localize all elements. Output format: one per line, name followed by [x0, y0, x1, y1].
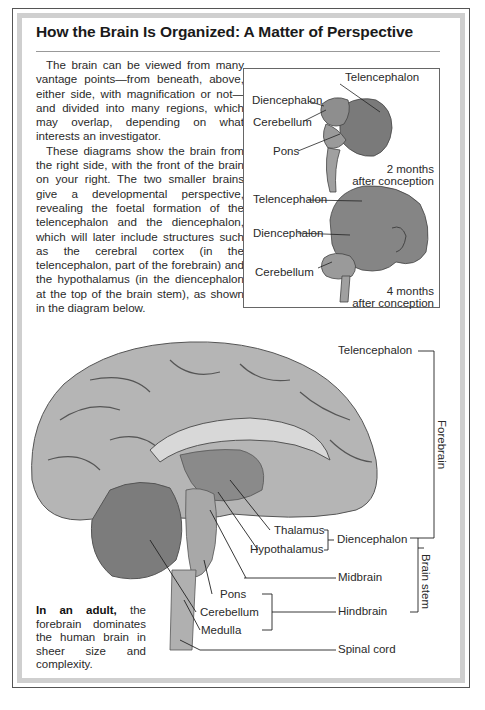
label-pons-2mo: Pons	[273, 145, 299, 157]
label-spinal-cord: Spinal cord	[338, 643, 396, 655]
label-telencephalon-adult: Telencephalon	[338, 344, 412, 356]
label-telencephalon-2mo: Telencephalon	[345, 71, 419, 83]
caption-4-months-line2: after conception	[348, 297, 434, 309]
caption-2-months-line2: after conception	[348, 175, 434, 187]
label-midbrain: Midbrain	[338, 571, 382, 583]
label-pons-adult: Pons	[220, 588, 246, 600]
label-hindbrain: Hindbrain	[338, 605, 387, 617]
label-medulla: Medulla	[201, 624, 241, 636]
group-label-forebrain: Forebrain	[436, 420, 448, 469]
caption-2-months-line1: 2 months	[348, 163, 434, 175]
label-diencephalon-adult: Diencephalon	[337, 533, 407, 545]
caption-2-months: 2 months after conception	[348, 163, 434, 187]
label-diencephalon-2mo: Diencephalon	[252, 94, 322, 106]
label-diencephalon-4mo: Diencephalon	[253, 227, 323, 239]
caption-4-months: 4 months after conception	[348, 285, 434, 309]
adult-note-lead: In an adult,	[36, 604, 117, 616]
label-cerebellum-4mo: Cerebellum	[255, 266, 314, 278]
label-thalamus: Thalamus	[274, 524, 325, 536]
adult-note: In an adult, the forebrain dominates the…	[36, 604, 146, 672]
label-cerebellum-2mo: Cerebellum	[253, 116, 312, 128]
label-hypothalamus: Hypothalamus	[250, 543, 324, 555]
label-cerebellum-adult: Cerebellum	[200, 606, 259, 618]
group-label-brain-stem: Brain stem	[420, 554, 432, 609]
label-telencephalon-4mo: Telencephalon	[253, 193, 327, 205]
caption-4-months-line1: 4 months	[348, 285, 434, 297]
